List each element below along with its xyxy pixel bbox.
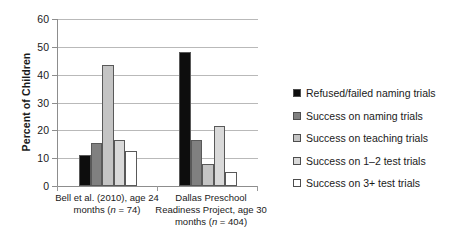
legend: Refused/failed naming trialsSuccess on n… — [293, 82, 436, 195]
bar-group-0-series-0 — [79, 155, 91, 186]
x-label-line: Dallas Preschool — [152, 192, 270, 204]
x-label-line: Readiness Project, age 30 — [152, 204, 270, 216]
legend-swatch-icon-0 — [293, 89, 301, 97]
y-tick-label-40: 40 — [13, 70, 49, 81]
y-tick-label-10: 10 — [13, 153, 49, 164]
gridline-20 — [58, 130, 258, 131]
bar-group-1-series-0 — [179, 52, 191, 186]
gridline-40 — [58, 75, 258, 76]
bar-group-1-series-4 — [225, 172, 237, 186]
x-tick-mark-1 — [157, 186, 158, 191]
y-tick-label-60: 60 — [13, 14, 49, 25]
bar-group-1-series-2 — [202, 164, 214, 186]
legend-label-3: Success on 1–2 test trials — [306, 156, 426, 167]
bar-group-0-series-2 — [102, 65, 114, 186]
x-axis-group-label-1: Dallas PreschoolReadiness Project, age 3… — [152, 192, 270, 229]
bar-group-0-series-1 — [91, 143, 103, 186]
bar-group-0-series-3 — [114, 140, 126, 186]
legend-swatch-icon-3 — [293, 157, 301, 165]
x-label-line: months (n = 74) — [48, 204, 166, 216]
legend-swatch-icon-4 — [293, 179, 301, 187]
x-axis-group-label-0: Bell et al. (2010), age 24months (n = 74… — [48, 192, 166, 216]
bar-chart: Percent of Children 6050403020100 Bell e… — [0, 0, 470, 249]
legend-item-1: Success on naming trials — [293, 105, 436, 128]
legend-label-2: Success on teaching trials — [306, 133, 428, 144]
x-label-line: Bell et al. (2010), age 24 — [48, 192, 166, 204]
legend-swatch-icon-1 — [293, 112, 301, 120]
y-tick-label-20: 20 — [13, 125, 49, 136]
gridline-50 — [58, 47, 258, 48]
bar-group-1-series-3 — [214, 126, 226, 186]
legend-label-1: Success on naming trials — [306, 111, 423, 122]
gridline-60 — [58, 19, 258, 20]
bar-group-1-series-1 — [191, 140, 203, 186]
gridline-30 — [58, 103, 258, 104]
legend-item-4: Success on 3+ test trials — [293, 172, 436, 195]
legend-label-0: Refused/failed naming trials — [306, 88, 436, 99]
plot-area — [57, 19, 258, 186]
legend-swatch-icon-2 — [293, 134, 301, 142]
y-tick-label-50: 50 — [13, 42, 49, 53]
x-tick-mark-0 — [57, 186, 58, 191]
y-tick-label-30: 30 — [13, 98, 49, 109]
legend-item-3: Success on 1–2 test trials — [293, 150, 436, 173]
legend-label-4: Success on 3+ test trials — [306, 178, 420, 189]
x-label-line: months (n = 404) — [152, 216, 270, 228]
x-tick-mark-2 — [257, 186, 258, 191]
legend-item-2: Success on teaching trials — [293, 127, 436, 150]
legend-item-0: Refused/failed naming trials — [293, 82, 436, 105]
y-tick-label-0: 0 — [13, 181, 49, 192]
bar-group-0-series-4 — [125, 151, 137, 186]
gridline-0 — [58, 186, 258, 187]
